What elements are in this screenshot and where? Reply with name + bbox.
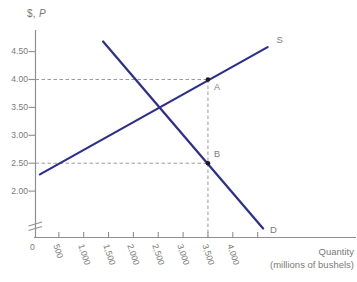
y-axis-title: $,P [27,9,46,19]
point-B-marker [206,161,211,166]
y-axis-title-symbol: $, [27,8,36,19]
y-tick-label: 3.50 [0,103,28,112]
y-tick-label: 3.00 [0,131,28,140]
supply-curve [40,47,268,174]
point-A-marker [206,77,211,82]
point-B-label: B [214,150,220,159]
chart-canvas [0,0,357,282]
x-axis-title-line2: (millions of bushels) [234,259,354,272]
demand-curve-label: D [270,225,277,235]
x-axis-title-line1: Quantity [234,246,354,259]
supply-curve-label: S [277,35,283,45]
y-tick-label: 4.50 [0,47,28,56]
y-tick-label: 2.50 [0,159,28,168]
y-tick-label: 4.00 [0,75,28,84]
y-axis-title-variable: P [39,8,46,19]
point-A-label: A [214,83,220,92]
y-tick-label: 2.00 [0,187,28,196]
supply-demand-chart: $,P 2.002.503.003.504.004.5005001,0001,5… [0,0,357,282]
demand-curve [103,42,263,229]
x-axis-title: Quantity (millions of bushels) [234,246,354,271]
x-tick-label: 0 [30,243,35,252]
